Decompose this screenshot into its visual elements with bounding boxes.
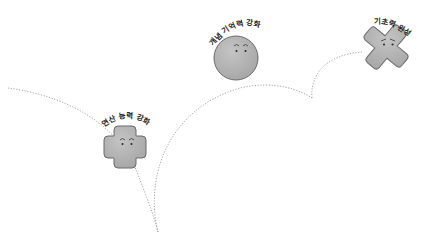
path-segment-3	[312, 52, 362, 98]
right-eye-icon	[131, 143, 133, 145]
learning-progress-illustration: 연산 능력 강화 개념 기억력 강화 기초력 완성	[0, 0, 445, 252]
stage-3-character: 기초력 완성	[352, 13, 420, 81]
stage-1-character: 연산 능력 강화	[100, 110, 152, 168]
illustration-canvas: 연산 능력 강화 개념 기억력 강화 기초력 완성	[0, 0, 445, 252]
left-eye-icon	[122, 143, 124, 145]
left-eye-icon	[236, 50, 238, 52]
path-segment-2	[154, 85, 312, 232]
circle-blob-icon	[214, 36, 258, 80]
right-eye-icon	[245, 50, 247, 52]
trajectory-paths	[8, 52, 362, 232]
left-eye-icon	[383, 44, 385, 46]
right-eye-icon	[392, 44, 394, 46]
stage-2-character: 개념 기억력 강화	[207, 17, 262, 80]
